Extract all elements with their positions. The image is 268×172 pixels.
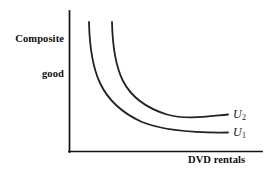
indifference-curve-figure: Composite good DVD rentals U2 U1 [0, 0, 268, 172]
y-axis-label-line-2: good [2, 68, 64, 80]
indifference-curve-u2 [112, 22, 228, 117]
curve-label-u1-symbol: U [233, 125, 242, 139]
x-axis-label: DVD rentals [188, 154, 245, 166]
curve-label-u1: U1 [233, 125, 246, 140]
curve-label-u2-subscript: 2 [242, 113, 246, 122]
curve-label-u1-subscript: 1 [242, 131, 246, 140]
y-axis-label: Composite good [2, 9, 64, 103]
y-axis-label-line-1: Composite [2, 33, 64, 45]
curve-label-u2-symbol: U [233, 107, 242, 121]
curve-label-u2: U2 [233, 107, 246, 122]
